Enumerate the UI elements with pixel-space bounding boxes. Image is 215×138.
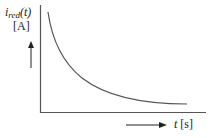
- y-axis-unit: [A]: [13, 20, 30, 33]
- y-direction-arrow-icon: [28, 41, 34, 68]
- x-direction-arrow-icon: [126, 122, 167, 128]
- decay-curve: [48, 12, 187, 104]
- x-axis-unit: [s]: [180, 117, 193, 131]
- x-symbol: t: [174, 117, 177, 131]
- y-argument: (t): [20, 5, 31, 19]
- x-axis-label: t [s]: [174, 118, 193, 131]
